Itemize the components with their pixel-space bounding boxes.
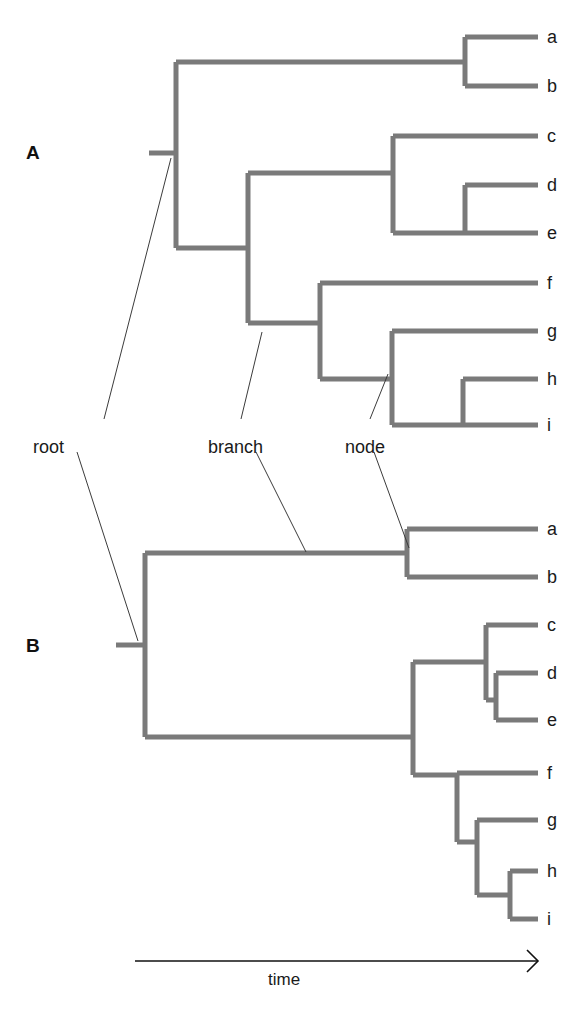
tip-label-a-i: i bbox=[547, 416, 551, 434]
leader-line-root-2 bbox=[77, 452, 138, 641]
panel-letter-b: B bbox=[26, 636, 40, 655]
tip-label-b-a: a bbox=[547, 520, 557, 538]
time-axis-label: time bbox=[268, 971, 300, 988]
panel-b-branch-group bbox=[116, 529, 538, 919]
leader-line-root-1 bbox=[104, 158, 171, 419]
tip-label-a-h: h bbox=[547, 370, 557, 388]
tip-label-a-a: a bbox=[547, 28, 557, 46]
tip-label-a-b: b bbox=[547, 77, 557, 95]
annotation-label-branch: branch bbox=[208, 438, 263, 456]
tip-label-b-g: g bbox=[547, 811, 557, 829]
tip-label-b-d: d bbox=[547, 664, 557, 682]
leader-line-branch-2 bbox=[256, 452, 306, 552]
leader-line-branch-1 bbox=[241, 332, 262, 419]
tip-label-a-f: f bbox=[547, 274, 552, 292]
tip-label-b-e: e bbox=[547, 711, 557, 729]
annotation-leader-lines bbox=[77, 158, 409, 641]
tip-label-b-i: i bbox=[547, 910, 551, 928]
tip-label-a-g: g bbox=[547, 322, 557, 340]
panel-letter-a: A bbox=[26, 143, 40, 162]
panel-a-branch-group bbox=[149, 37, 538, 425]
annotation-label-root: root bbox=[33, 438, 64, 456]
tip-label-a-c: c bbox=[547, 127, 556, 145]
annotation-label-node: node bbox=[345, 438, 385, 456]
time-axis-arrow bbox=[135, 950, 538, 972]
figure-canvas: AB abcdefghiabcdefghi rootbranchnode tim… bbox=[0, 0, 567, 1012]
tip-label-a-d: d bbox=[547, 176, 557, 194]
tip-label-a-e: e bbox=[547, 224, 557, 242]
tip-label-b-h: h bbox=[547, 862, 557, 880]
tip-label-b-f: f bbox=[547, 764, 552, 782]
leader-line-node-2 bbox=[374, 452, 409, 548]
tip-label-b-c: c bbox=[547, 616, 556, 634]
phylogenetic-tree-svg bbox=[0, 0, 567, 1012]
tip-label-b-b: b bbox=[547, 568, 557, 586]
